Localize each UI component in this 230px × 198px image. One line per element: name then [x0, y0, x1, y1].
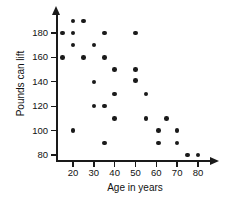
x-tick-label-20: 20: [63, 168, 83, 178]
x-tick-30: [93, 161, 94, 167]
data-point: [156, 128, 161, 133]
y-tick-label-80: 80: [37, 150, 48, 160]
x-tick-label-40: 40: [105, 168, 125, 178]
data-point: [60, 31, 65, 36]
x-tick-label-80: 80: [188, 168, 208, 178]
x-tick-label-70: 70: [167, 168, 187, 178]
data-point: [71, 31, 76, 36]
y-tick-label-100: 100: [32, 126, 48, 136]
x-tick-50: [135, 161, 136, 167]
y-tick-100: [51, 130, 57, 131]
data-point: [92, 104, 97, 109]
y-tick-160: [51, 57, 57, 58]
data-point: [112, 67, 117, 72]
y-tick-label-180: 180: [32, 28, 48, 38]
x-tick-20: [72, 161, 73, 167]
y-axis-title: Pounds can lift: [15, 24, 26, 144]
scatter-plot: 80100120140160180 20304050607080 Pounds …: [0, 0, 230, 198]
data-point: [175, 128, 180, 133]
data-point: [102, 104, 107, 109]
y-tick-140: [51, 81, 57, 82]
data-point: [133, 67, 138, 72]
x-tick-70: [176, 161, 177, 167]
y-axis-arrow-icon: [52, 6, 60, 15]
data-point: [102, 55, 107, 60]
data-point: [102, 141, 107, 146]
data-point: [196, 153, 201, 158]
y-tick-180: [51, 32, 57, 33]
data-point: [60, 55, 65, 60]
y-tick-label-140: 140: [32, 77, 48, 87]
data-point: [133, 31, 138, 36]
x-tick-60: [156, 161, 157, 167]
data-point: [81, 19, 86, 24]
x-tick-label-60: 60: [146, 168, 166, 178]
y-tick-label-160: 160: [32, 52, 48, 62]
data-point: [112, 116, 117, 121]
x-axis-arrow-icon: [210, 157, 219, 165]
x-tick-40: [114, 161, 115, 167]
data-point: [92, 80, 97, 85]
data-point: [112, 92, 117, 97]
data-point: [175, 141, 180, 146]
y-tick-label-120: 120: [32, 101, 48, 111]
x-axis-title: Age in years: [60, 182, 210, 193]
x-tick-80: [197, 161, 198, 167]
data-point: [185, 153, 190, 158]
data-point: [71, 43, 76, 48]
y-tick-120: [51, 106, 57, 107]
data-point: [81, 55, 86, 60]
data-point: [102, 31, 107, 36]
data-point: [71, 19, 76, 24]
data-point: [144, 116, 149, 121]
y-tick-80: [51, 154, 57, 155]
x-tick-label-30: 30: [84, 168, 104, 178]
data-point: [164, 116, 169, 121]
data-point: [144, 92, 149, 97]
y-axis-line: [56, 14, 58, 162]
data-point: [92, 43, 97, 48]
data-point: [71, 128, 76, 133]
x-tick-label-50: 50: [126, 168, 146, 178]
data-point: [133, 78, 138, 83]
data-point: [156, 141, 161, 146]
